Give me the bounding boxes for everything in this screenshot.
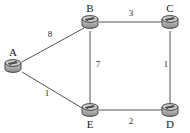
node-label-d: D [163, 119, 177, 130]
edge-weight-c-d: 1 [161, 60, 171, 69]
edge-weight-a-e: 1 [42, 89, 52, 98]
edge-weight-b-e: 7 [93, 60, 103, 69]
node-e-router-icon [81, 103, 99, 117]
node-label-b: B [83, 3, 97, 14]
edge-a-e [22, 72, 82, 108]
edge-weight-a-b: 8 [45, 30, 55, 39]
node-label-e: E [83, 119, 97, 130]
node-c-router-icon [161, 15, 179, 29]
node-d-router-icon [161, 103, 179, 117]
edge-weight-e-d: 2 [126, 117, 136, 126]
edge-weight-b-c: 3 [126, 9, 136, 18]
network-diagram: ABCDE 813712 [0, 0, 190, 133]
node-b-router-icon [81, 15, 99, 29]
node-label-c: C [163, 3, 177, 14]
node-label-a: A [6, 47, 20, 58]
node-a-router-icon [4, 59, 22, 73]
